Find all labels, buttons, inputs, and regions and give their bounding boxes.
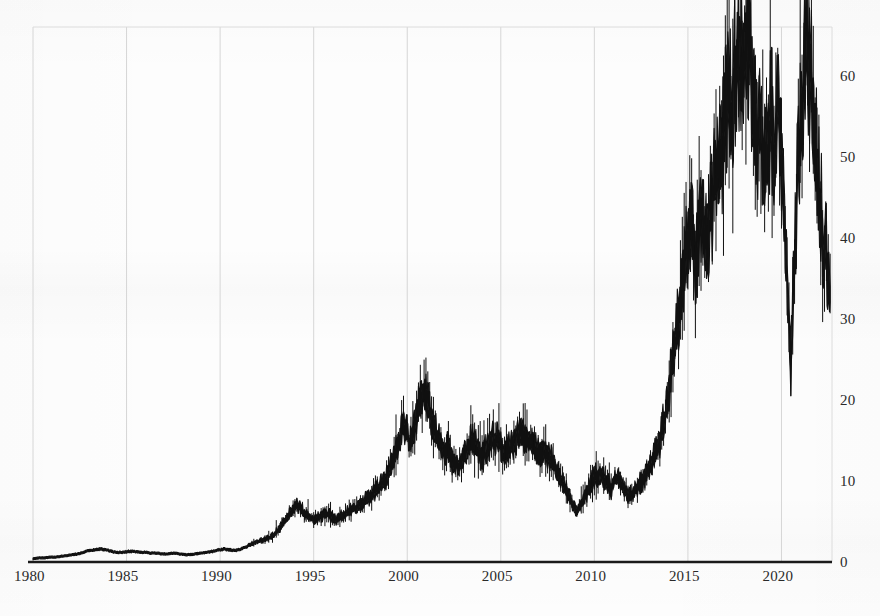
series-band-value [33,0,830,560]
y-tick-label-40: 40 [840,229,855,246]
time-series-chart [0,0,880,616]
plot-frame [33,27,832,562]
x-tick-label-1985: 1985 [108,568,139,585]
y-tick-label-0: 0 [840,554,848,571]
x-tick-label-2005: 2005 [482,568,513,585]
x-tick-label-1990: 1990 [201,568,232,585]
x-tick-label-2020: 2020 [762,568,793,585]
y-tick-label-10: 10 [840,472,855,489]
x-tick-label-2010: 2010 [575,568,606,585]
y-tick-label-60: 60 [840,67,855,84]
gridline-group [33,27,781,562]
y-tick-label-20: 20 [840,391,855,408]
x-tick-label-2015: 2015 [669,568,700,585]
series-group [33,0,830,560]
chart-page: 198019851990199520002005201020152020 010… [0,0,880,616]
x-tick-label-1980: 1980 [14,568,45,585]
x-tick-label-2000: 2000 [388,568,419,585]
y-tick-label-50: 50 [840,148,855,165]
x-tick-label-1995: 1995 [295,568,326,585]
y-tick-label-30: 30 [840,310,855,327]
